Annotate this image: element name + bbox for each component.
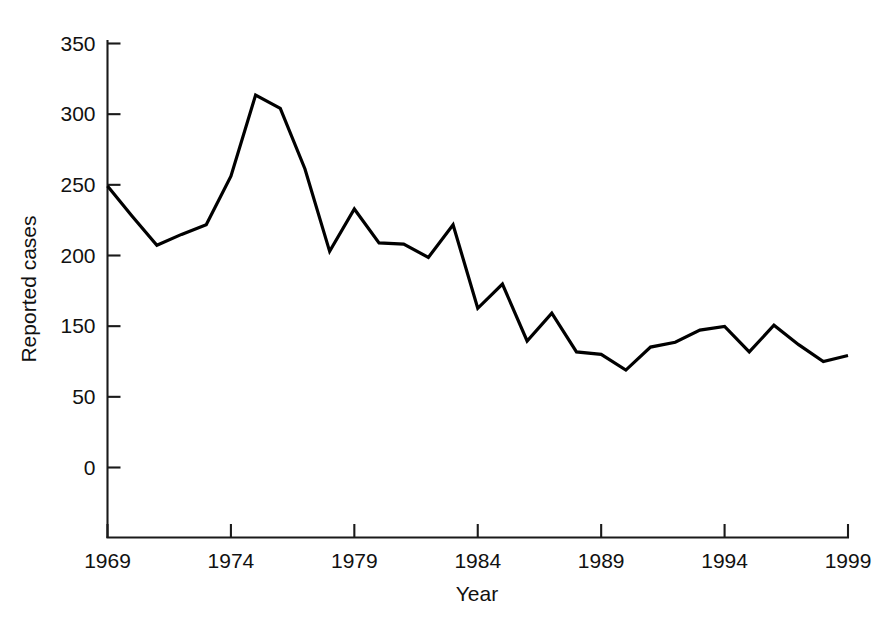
x-axis-title: Year: [456, 582, 498, 605]
x-axis-ticks: [108, 524, 849, 538]
x-tick-label: 1994: [701, 549, 748, 572]
x-axis-tick-labels: 1969197419791984198919941999: [84, 549, 871, 572]
y-axis-title: Reported cases: [17, 215, 40, 362]
y-tick-label: 300: [60, 102, 95, 125]
data-series-line: [108, 95, 849, 370]
y-tick-label: 200: [60, 244, 95, 267]
line-chart: 050150200250300350 196919741979198419891…: [0, 0, 894, 635]
x-tick-label: 1969: [84, 549, 131, 572]
x-tick-label: 1989: [578, 549, 625, 572]
y-axis: 050150200250300350: [60, 32, 120, 538]
y-tick-label: 50: [72, 385, 95, 408]
y-tick-label: 350: [60, 32, 95, 55]
x-tick-label: 1979: [331, 549, 378, 572]
x-tick-label: 1999: [825, 549, 872, 572]
y-axis-ticks: [108, 44, 121, 468]
y-tick-label: 0: [84, 456, 96, 479]
chart-figure: 050150200250300350 196919741979198419891…: [0, 0, 894, 635]
y-tick-label: 150: [60, 314, 95, 337]
y-tick-label: 250: [60, 173, 95, 196]
x-tick-label: 1974: [208, 549, 255, 572]
y-axis-tick-labels: 050150200250300350: [60, 32, 95, 479]
x-axis: 1969197419791984198919941999: [84, 524, 871, 572]
x-tick-label: 1984: [454, 549, 501, 572]
